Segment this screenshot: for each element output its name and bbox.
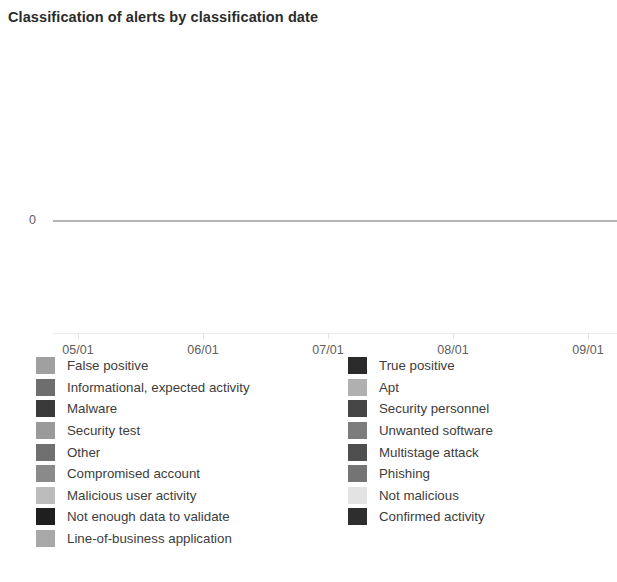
x-axis-line — [53, 333, 617, 334]
legend-item-label: Confirmed activity — [379, 508, 485, 525]
legend-swatch-icon — [36, 422, 55, 439]
legend-item-label: True positive — [379, 357, 455, 374]
legend-item[interactable]: Security personnel — [348, 398, 493, 420]
legend-item-label: Multistage attack — [379, 444, 479, 461]
legend-swatch-icon — [348, 379, 367, 396]
legend-swatch-icon — [36, 379, 55, 396]
legend-swatch-icon — [36, 530, 55, 547]
page-title: Classification of alerts by classificati… — [8, 9, 318, 25]
series-line-zero — [53, 220, 617, 222]
legend-item[interactable]: Security test — [36, 420, 250, 442]
x-axis-tick-mark — [453, 333, 454, 339]
legend-item[interactable]: Compromised account — [36, 463, 250, 485]
legend-column-right: True positiveAptSecurity personnelUnwant… — [348, 355, 493, 528]
legend-swatch-icon — [36, 400, 55, 417]
legend-item[interactable]: Line-of-business application — [36, 528, 250, 550]
legend-item-label: Not malicious — [379, 487, 459, 504]
legend-item[interactable]: Multistage attack — [348, 441, 493, 463]
legend-item[interactable]: Unwanted software — [348, 420, 493, 442]
legend-swatch-icon — [348, 465, 367, 482]
legend-item[interactable]: Apt — [348, 377, 493, 399]
x-axis-tick-mark — [203, 333, 204, 339]
legend-item-label: Phishing — [379, 465, 430, 482]
legend-item[interactable]: True positive — [348, 355, 493, 377]
legend-item-label: Apt — [379, 379, 399, 396]
x-axis-tick-mark — [588, 333, 589, 339]
legend-item[interactable]: Confirmed activity — [348, 506, 493, 528]
legend-item-label: Security personnel — [379, 400, 489, 417]
legend-swatch-icon — [348, 357, 367, 374]
legend-item-label: Line-of-business application — [67, 530, 232, 547]
legend-column-left: False positiveInformational, expected ac… — [36, 355, 250, 549]
legend-item-label: Not enough data to validate — [67, 508, 230, 525]
legend-item-label: Other — [67, 444, 100, 461]
legend-item-label: Compromised account — [67, 465, 200, 482]
legend-item-label: Malware — [67, 400, 117, 417]
legend-swatch-icon — [348, 400, 367, 417]
legend-item-label: Security test — [67, 422, 140, 439]
legend-swatch-icon — [36, 487, 55, 504]
legend-item-label: False positive — [67, 357, 148, 374]
legend-item[interactable]: Other — [36, 441, 250, 463]
legend-item-label: Malicious user activity — [67, 487, 196, 504]
legend-swatch-icon — [36, 357, 55, 374]
legend-item[interactable]: False positive — [36, 355, 250, 377]
legend-swatch-icon — [36, 508, 55, 525]
legend-item[interactable]: Malware — [36, 398, 250, 420]
x-axis-tick-mark — [328, 333, 329, 339]
legend-item[interactable]: Not enough data to validate — [36, 506, 250, 528]
legend-swatch-icon — [348, 422, 367, 439]
chart-plot-area[interactable]: 0 05/01 06/01 07/01 08/01 09/01 — [0, 42, 617, 294]
legend-item[interactable]: Phishing — [348, 463, 493, 485]
legend-swatch-icon — [36, 465, 55, 482]
legend-item[interactable]: Informational, expected activity — [36, 377, 250, 399]
chart-legend: False positiveInformational, expected ac… — [0, 355, 617, 582]
legend-item[interactable]: Not malicious — [348, 485, 493, 507]
x-axis-tick-mark — [78, 333, 79, 339]
y-axis-tick-label-0: 0 — [22, 212, 36, 228]
legend-swatch-icon — [348, 487, 367, 504]
legend-item[interactable]: Malicious user activity — [36, 485, 250, 507]
legend-swatch-icon — [36, 444, 55, 461]
legend-swatch-icon — [348, 508, 367, 525]
legend-item-label: Informational, expected activity — [67, 379, 250, 396]
legend-swatch-icon — [348, 444, 367, 461]
legend-item-label: Unwanted software — [379, 422, 493, 439]
